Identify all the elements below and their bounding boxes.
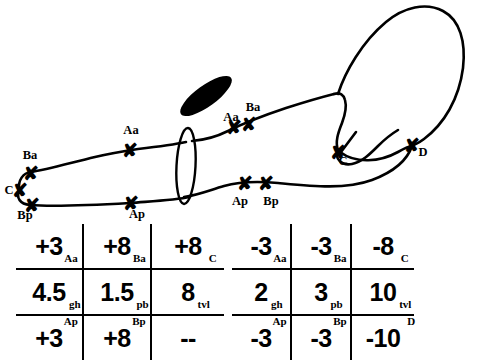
cell-value: -3 (250, 324, 271, 352)
cell-value: -3 (250, 232, 271, 260)
cell-subscript: Ba (133, 252, 146, 264)
cell-R-r0-c0: -3Aa (232, 224, 291, 269)
cell-value: +8 (174, 232, 202, 260)
strand-lower-right (184, 146, 412, 197)
cell-value: 4.5 (32, 278, 65, 306)
table-row: -3Ap -3Bp -10D (232, 315, 414, 360)
crossing-label-D-right: D (418, 146, 427, 159)
cell-value: -8 (372, 232, 393, 260)
cell-R-r2-c0: -3Ap (232, 315, 291, 360)
cell-subscript: Aa (64, 252, 77, 264)
cell-R-r2-c1: -3Bp (291, 315, 351, 360)
strand-upper-left (19, 142, 186, 190)
cell-subscript: pb (330, 298, 342, 310)
crossing-mark-Ba-upper: ✘ (241, 115, 257, 134)
crossing-label-Bp-lower: Bp (263, 195, 278, 208)
cell-R-r1-c1: 3pb (291, 269, 351, 315)
cell-value: -- (180, 324, 196, 352)
cell-value: -10 (366, 324, 401, 352)
cell-R-r1-c0: 2gh (232, 269, 291, 315)
cell-superscript: Ap (273, 315, 287, 327)
cell-value: -3 (310, 232, 331, 260)
cell-L-r0-c1: +8Ba (83, 224, 151, 269)
cell-subscript: C (209, 252, 217, 264)
cell-L-r1-c2: 8tvl (151, 269, 224, 315)
strand-lower-left (18, 190, 190, 206)
cell-R-r0-c1: -3Ba (291, 224, 351, 269)
cell-subscript: tvl (399, 298, 411, 310)
left-invariant-table: +3Aa +8Ba +8C 4.5gh 1.5pb 8tvl +3Ap (16, 224, 224, 360)
cell-value: 3 (314, 278, 327, 306)
cell-value: 10 (370, 278, 397, 306)
crossing-label-Bp-left: Bp (17, 209, 32, 222)
table-row: +3Ap +8Bp -- (16, 315, 224, 360)
cell-L-r0-c0: +3Aa (16, 224, 83, 269)
cell-value: -3 (310, 324, 331, 352)
knot-diagram: ✘ ✘ ✘ ✘ ✘ ✘ ✘ ✘ ✘ ✘ ✘ Ba C Bp Aa Ap Aa B… (0, 0, 477, 222)
cell-value: +3 (35, 232, 63, 260)
cell-subscript: pb (136, 298, 148, 310)
cell-subscript: Aa (273, 252, 286, 264)
table-row: 4.5gh 1.5pb 8tvl (16, 269, 224, 315)
cell-R-r0-c2: -8C (351, 224, 414, 269)
cell-value: 2 (254, 278, 267, 306)
cell-L-r2-c2: -- (151, 315, 224, 360)
cell-superscript: Ap (64, 315, 78, 327)
cell-subscript: gh (69, 298, 81, 310)
table-row: 2gh 3pb 10tvl (232, 269, 414, 315)
cell-value: +8 (103, 232, 131, 260)
cell-subscript: Ba (334, 252, 347, 264)
cell-value: +8 (103, 324, 131, 352)
cell-subscript: gh (271, 298, 283, 310)
cell-value: 8 (181, 278, 194, 306)
cell-L-r1-c1: 1.5pb (83, 269, 151, 315)
crossing-mark-Bp-lower: ✘ (258, 174, 274, 193)
crossing-label-Aa-mid: Aa (123, 124, 138, 137)
crossing-label-Aa-upper: Aa (223, 111, 238, 124)
crossing-mark-Aa-mid: ✘ (122, 141, 138, 160)
vertical-ring (175, 128, 198, 205)
cell-subscript: C (401, 252, 409, 264)
table-row: -3Aa -3Ba -8C (232, 224, 414, 269)
cell-value: +3 (35, 324, 63, 352)
cell-L-r0-c2: +8C (151, 224, 224, 269)
cell-R-r1-c2: 10tvl (351, 269, 414, 315)
crossing-label-Ap-lower: Ap (232, 195, 248, 208)
crossing-label-C-left: C (4, 184, 13, 197)
right-invariant-table: -3Aa -3Ba -8C 2gh 3pb 10tvl -3Ap (232, 224, 414, 360)
crossing-label-C-right: C (338, 155, 347, 168)
crossing-mark-Ap-lower: ✘ (237, 174, 253, 193)
cell-R-r2-c2: -10D (351, 315, 414, 360)
cell-L-r2-c1: +8Bp (83, 315, 151, 360)
crossing-label-Ba-upper: Ba (246, 101, 261, 114)
crossing-label-Ap-mid: Ap (129, 208, 145, 221)
crossing-label-Ba-left: Ba (23, 149, 38, 162)
cell-superscript: D (407, 315, 415, 327)
table-row: +3Aa +8Ba +8C (16, 224, 224, 269)
right-lobe-big (338, 7, 464, 146)
cell-superscript: Bp (132, 315, 145, 327)
cell-L-r1-c0: 4.5gh (16, 269, 83, 315)
cell-superscript: Bp (333, 315, 346, 327)
cell-subscript: tvl (197, 298, 209, 310)
cell-value: 1.5 (100, 278, 133, 306)
cell-L-r2-c0: +3Ap (16, 315, 83, 360)
